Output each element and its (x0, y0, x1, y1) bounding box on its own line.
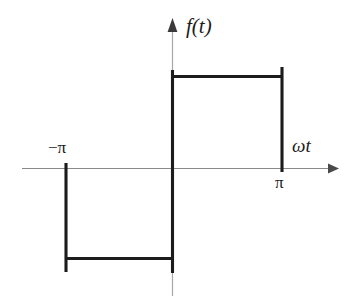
y-axis-arrow-icon (168, 18, 178, 32)
y-axis-label: f(t) (186, 16, 212, 37)
x-tick-label-neg-pi: −π (48, 139, 66, 156)
x-axis-arrow-icon (328, 164, 339, 174)
square-wave-figure: f(t) ωt −π π (0, 0, 347, 303)
x-tick-label-pi: π (275, 174, 284, 191)
x-axis-label: ωt (292, 136, 311, 155)
x-axis (22, 164, 339, 174)
waveform-trace (65, 67, 283, 273)
